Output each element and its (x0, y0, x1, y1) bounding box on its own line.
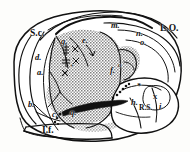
figure-container: S.c. d. g. e. a. b. c. q. I.f. m. n. o. … (0, 0, 190, 152)
brain-diagram-svg (0, 0, 190, 152)
